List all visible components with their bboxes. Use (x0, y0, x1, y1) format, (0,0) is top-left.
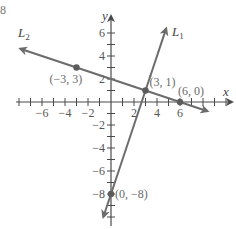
line-L1-upper (150, 28, 166, 76)
data-point (177, 99, 183, 105)
data-point (142, 87, 148, 93)
y-tick-label: −4 (92, 141, 105, 155)
point-label: (0, −8) (115, 187, 148, 201)
data-point (108, 191, 114, 197)
y-tick-label: −2 (92, 118, 105, 132)
x-tick-label: −6 (36, 106, 49, 120)
point-label: (−3, 3) (50, 72, 83, 86)
plot-svg: xy −6−4−2246642−2−4−6−8 (−3, 3)(3, 1)(6,… (0, 0, 236, 229)
x-axis-label: x (222, 84, 229, 99)
point-label: (6, 0) (178, 84, 204, 98)
corner-fragment: 8 (0, 3, 6, 18)
data-point (73, 64, 79, 70)
coordinate-plane: xy −6−4−2246642−2−4−6−8 (−3, 3)(3, 1)(6,… (0, 0, 236, 229)
line-label-L1: L1 (171, 24, 184, 41)
x-tick-label: −4 (59, 106, 72, 120)
line-label-L2: L2 (17, 25, 30, 42)
plotted-lines (20, 28, 207, 217)
point-label: (3, 1) (150, 75, 176, 89)
x-tick-label: 4 (154, 106, 160, 120)
y-tick-label: 2 (99, 72, 105, 86)
y-tick-label: 4 (99, 49, 105, 63)
y-tick-label: −8 (92, 187, 105, 201)
y-tick-label: 6 (99, 26, 105, 40)
x-tick-label: 6 (177, 106, 183, 120)
y-tick-label: −6 (92, 164, 105, 178)
y-axis-label: y (100, 8, 108, 23)
